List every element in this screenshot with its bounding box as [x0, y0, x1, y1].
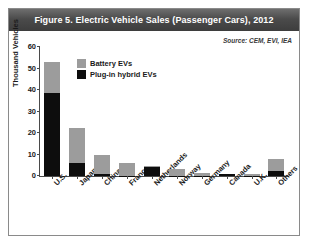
- y-axis-label: Thousand Vehicles: [11, 19, 20, 87]
- bar-group[interactable]: Others: [268, 47, 284, 176]
- bar-segment-plugin-hybrid-evs: [44, 93, 60, 176]
- bar-segment-battery-evs: [44, 62, 60, 93]
- legend-swatch-battery-evs: [77, 59, 86, 68]
- x-axis-tick-mark: [252, 176, 253, 179]
- bar-segment-battery-evs: [69, 128, 85, 163]
- bar-group[interactable]: Germany: [194, 47, 210, 176]
- figure-panel: Figure 5. Electric Vehicle Sales (Passen…: [8, 8, 300, 236]
- bar-group[interactable]: Canada: [219, 47, 235, 176]
- legend-swatch-plugin-hybrid-evs: [77, 70, 86, 79]
- bar-segment-battery-evs: [94, 155, 110, 174]
- legend-item-battery-evs: Battery EVs: [77, 59, 157, 68]
- source-note: Source: CEM, EVI, IEA: [223, 37, 292, 44]
- bar-group[interactable]: U.K.: [244, 47, 260, 176]
- x-axis-tick-label: U.K.: [252, 170, 269, 187]
- figure-title: Figure 5. Electric Vehicle Sales (Passen…: [34, 15, 273, 25]
- legend-label-plugin-hybrid-evs: Plug-in hybrid EVs: [90, 70, 157, 79]
- chart-area: Source: CEM, EVI, IEA Thousand Vehicles …: [9, 31, 299, 235]
- bar-group[interactable]: Norway: [169, 47, 185, 176]
- bar-group[interactable]: U.S.: [44, 47, 60, 176]
- legend-item-plugin-hybrid-evs: Plug-in hybrid EVs: [77, 70, 157, 79]
- chart-legend: Battery EVs Plug-in hybrid EVs: [77, 59, 157, 81]
- figure-title-bar: Figure 5. Electric Vehicle Sales (Passen…: [9, 9, 299, 31]
- legend-label-battery-evs: Battery EVs: [90, 59, 132, 68]
- bar-segment-battery-evs: [268, 159, 284, 171]
